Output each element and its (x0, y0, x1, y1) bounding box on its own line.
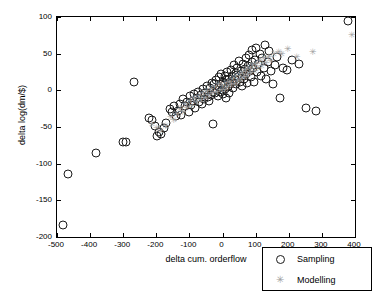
x-tick-label: 0 (219, 240, 223, 249)
data-point-sampling (196, 90, 205, 99)
data-point-sampling (188, 96, 197, 105)
data-point-sampling (213, 92, 222, 101)
data-point-sampling (150, 122, 159, 131)
x-tick-top (189, 17, 190, 21)
data-point-modelling (242, 66, 249, 73)
data-point-sampling (251, 55, 260, 64)
data-point-modelling (232, 72, 239, 79)
data-point-sampling (227, 77, 236, 86)
legend-marker-sampling (263, 255, 297, 264)
data-point-sampling (224, 88, 233, 97)
data-point-sampling (186, 92, 195, 101)
data-point-sampling (235, 57, 244, 66)
x-tick (355, 233, 356, 237)
data-point-sampling (194, 87, 203, 96)
x-tick-top (156, 17, 157, 21)
star-icon: ✳ (276, 275, 284, 285)
data-point-modelling (256, 58, 263, 65)
data-point-modelling (221, 87, 228, 94)
data-point-sampling (205, 84, 214, 93)
data-point-sampling (343, 17, 352, 26)
data-point-sampling (247, 58, 256, 67)
data-point-sampling (233, 64, 242, 73)
data-point-sampling (228, 71, 237, 80)
data-point-modelling (241, 74, 248, 81)
legend-label-sampling: Sampling (297, 254, 335, 264)
data-point-sampling (222, 76, 231, 85)
data-point-sampling (259, 64, 268, 73)
x-tick-top (123, 17, 124, 21)
data-point-sampling (145, 114, 154, 123)
x-tick-top (289, 17, 290, 21)
x-tick (289, 233, 290, 237)
data-point-sampling (129, 77, 138, 86)
x-tick-label: -500 (48, 240, 64, 249)
data-point-sampling (239, 59, 248, 68)
data-point-sampling (220, 72, 229, 81)
data-point-sampling (200, 95, 209, 104)
y-tick-right (351, 200, 355, 201)
x-tick-top (355, 17, 356, 21)
data-point-modelling (224, 84, 231, 91)
data-point-sampling (264, 46, 273, 55)
data-point-sampling (184, 108, 193, 117)
data-point-sampling (192, 93, 201, 102)
data-point-modelling (183, 104, 190, 111)
data-point-sampling (266, 67, 275, 76)
data-point-sampling (244, 62, 253, 71)
data-point-sampling (260, 40, 269, 49)
data-point-modelling (258, 63, 265, 70)
data-point-sampling (221, 93, 230, 102)
data-point-sampling (255, 49, 264, 58)
plot-area (56, 16, 356, 238)
data-point-modelling (244, 71, 251, 78)
x-tick-label: 100 (248, 240, 261, 249)
data-point-modelling (227, 82, 234, 89)
data-point-sampling (242, 70, 251, 79)
data-point-sampling (254, 59, 263, 68)
data-point-modelling (201, 94, 208, 101)
data-point-modelling (153, 125, 160, 132)
y-tick (57, 200, 61, 201)
data-point-modelling (348, 31, 355, 38)
data-point-modelling (188, 102, 195, 109)
data-point-sampling (231, 75, 240, 84)
data-point-sampling (226, 65, 235, 74)
data-point-modelling (247, 69, 254, 76)
data-point-sampling (225, 79, 234, 88)
data-point-modelling (170, 117, 177, 124)
y-tick-right (351, 237, 355, 238)
data-point-sampling (256, 71, 265, 80)
data-point-sampling (211, 76, 220, 85)
x-tick (189, 233, 190, 237)
data-point-sampling (154, 128, 163, 137)
data-point-sampling (263, 58, 272, 67)
data-point-sampling (258, 54, 267, 63)
x-tick (256, 233, 257, 237)
data-point-sampling (243, 79, 252, 88)
data-point-sampling (234, 73, 243, 82)
data-point-sampling (273, 52, 282, 61)
legend-marker-modelling: ✳ (263, 275, 297, 285)
y-tick-label: -100 (36, 158, 52, 167)
data-point-sampling (204, 96, 213, 105)
data-point-modelling (157, 127, 164, 134)
data-point-modelling (197, 96, 204, 103)
x-tick-label: -300 (114, 240, 130, 249)
data-point-modelling (181, 100, 188, 107)
x-tick (223, 233, 224, 237)
data-point-modelling (219, 82, 226, 89)
data-point-sampling (245, 67, 254, 76)
data-point-sampling (212, 85, 221, 94)
data-point-sampling (207, 79, 216, 88)
data-point-sampling (177, 110, 186, 119)
data-point-sampling (118, 138, 127, 147)
data-point-modelling (275, 49, 282, 56)
y-tick-label: -150 (36, 195, 52, 204)
data-point-modelling (234, 77, 241, 84)
data-point-sampling (216, 79, 225, 88)
data-point-sampling (225, 74, 234, 83)
data-point-modelling (309, 49, 316, 56)
data-point-sampling (295, 59, 304, 68)
data-point-sampling (251, 43, 260, 52)
